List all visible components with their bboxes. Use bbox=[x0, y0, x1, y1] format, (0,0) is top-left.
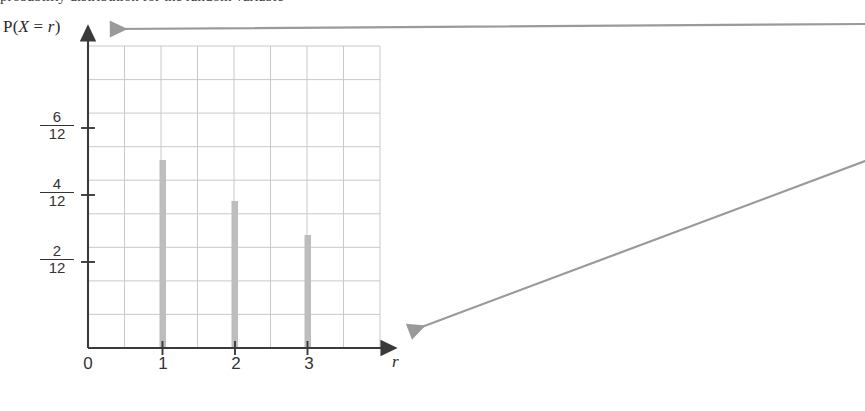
horizontal-callout-arrow bbox=[112, 24, 865, 29]
callout-arrows bbox=[112, 24, 865, 331]
bar-series bbox=[160, 160, 312, 348]
figure-canvas: probability distribution for the random … bbox=[0, 0, 865, 411]
diagonal-callout-arrow bbox=[411, 161, 865, 331]
axis-ticks bbox=[81, 128, 308, 355]
plot-svg bbox=[0, 0, 865, 411]
axes bbox=[88, 26, 396, 348]
bar-r-2 bbox=[232, 201, 239, 348]
bar-r-1 bbox=[160, 160, 167, 348]
bar-r-3 bbox=[305, 235, 312, 348]
